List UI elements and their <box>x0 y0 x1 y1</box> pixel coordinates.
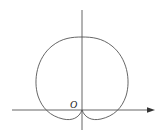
origin-label: O <box>70 99 77 110</box>
x-axis-arrow-icon <box>147 107 155 112</box>
cardioid-diagram: O <box>0 0 167 135</box>
